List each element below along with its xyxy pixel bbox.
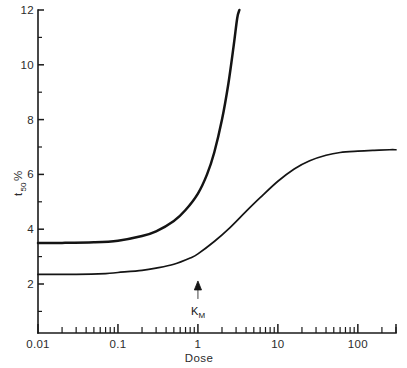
x-axis-title: Dose: [185, 352, 213, 364]
y-tick-label: 12: [21, 4, 34, 16]
y-axis-ticks: [38, 10, 44, 311]
x-tick-label: 100: [348, 338, 368, 350]
y-axis-title: t 50 %: [12, 170, 28, 196]
y-tick-label: 2: [27, 278, 34, 290]
y-axis-title-percent: %: [12, 170, 24, 181]
y-axis-title-sub: 50: [19, 182, 28, 191]
plot-canvas: 12108642 0.010.1110100 K M t 50 % Dose: [0, 0, 407, 368]
arrow-up-icon: [194, 281, 201, 290]
x-tick-label: 0.1: [110, 338, 127, 350]
y-tick-label: 10: [21, 59, 34, 71]
y-axis-title-main: t: [12, 192, 24, 196]
x-axis-ticks: [38, 324, 396, 333]
km-sublabel: M: [198, 311, 205, 320]
data-curve-lower: [38, 150, 396, 275]
y-axis-tick-labels: 12108642: [21, 4, 35, 290]
y-tick-label: 4: [27, 223, 34, 235]
axis-lines: [38, 10, 396, 333]
data-curve-upper: [38, 10, 239, 243]
x-tick-label: 1: [195, 338, 202, 350]
x-tick-label: 0.01: [26, 338, 50, 350]
x-axis-tick-labels: 0.010.1110100: [26, 338, 368, 350]
km-annotation: K M: [191, 281, 206, 320]
chart-figure: 12108642 0.010.1110100 K M t 50 % Dose: [0, 0, 407, 368]
y-tick-label: 6: [27, 168, 34, 180]
y-tick-label: 8: [27, 114, 34, 126]
x-tick-label: 10: [271, 338, 284, 350]
